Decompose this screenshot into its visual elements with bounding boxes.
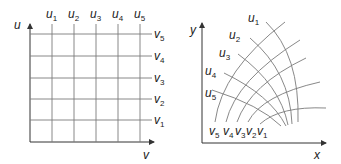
v4-curve-label: v4 xyxy=(223,124,234,140)
u2-curve-label: u2 xyxy=(229,28,241,44)
u3-label: u3 xyxy=(90,7,102,23)
coordinate-mapping-diagram: u v u1 u2 u3 u4 u5 v5 v4 v3 v2 v1 xyxy=(0,0,341,164)
v3-curve-label: v3 xyxy=(235,124,246,140)
v-axis-label: v xyxy=(143,148,150,162)
v2-label: v2 xyxy=(154,92,165,108)
u1-label: u1 xyxy=(46,7,58,23)
u5-label: u5 xyxy=(134,7,146,23)
u2-label: u2 xyxy=(68,7,80,23)
u5-curve-label: u5 xyxy=(205,86,217,102)
u1-curve-label: u1 xyxy=(248,11,260,27)
u-lines xyxy=(52,24,140,142)
v-lines xyxy=(30,34,152,120)
u-axis-label: u xyxy=(14,18,21,32)
x-axis-label: x xyxy=(313,148,321,162)
right-panel-xy-curvilinear-grid: y x u1 u2 u3 u4 u5 v5 v4 v3 v2 v1 xyxy=(189,11,326,162)
v1-label: v1 xyxy=(154,113,165,129)
left-panel-uv-grid: u v u1 u2 u3 u4 u5 v5 v4 v3 v2 v1 xyxy=(14,7,165,162)
v4-label: v4 xyxy=(154,49,165,65)
u4-label: u4 xyxy=(112,7,124,23)
u-curves xyxy=(212,22,298,126)
u4-curve-label: u4 xyxy=(205,64,217,80)
v3-label: v3 xyxy=(154,71,165,87)
y-axis-label: y xyxy=(189,23,197,37)
v5-curve-label: v5 xyxy=(209,124,220,140)
u3-curve-label: u3 xyxy=(219,46,231,62)
v5-label: v5 xyxy=(154,27,165,43)
v2-curve-label: v2 xyxy=(246,124,257,140)
v1-curve-label: v1 xyxy=(257,124,268,140)
